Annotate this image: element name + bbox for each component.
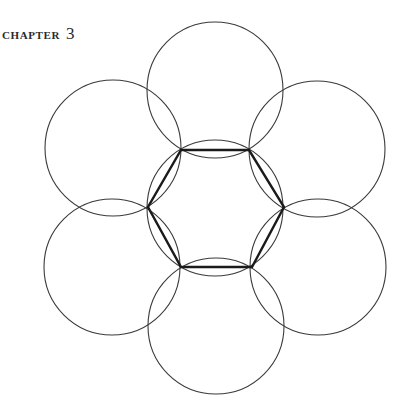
circle-upper-right xyxy=(249,81,385,217)
circle-lower-left xyxy=(44,199,180,335)
circle-upper-left xyxy=(45,80,181,216)
center-circle xyxy=(147,140,283,276)
circle-bottom xyxy=(148,258,284,394)
inscribed-hexagon xyxy=(148,150,284,267)
circle-lower-right xyxy=(250,199,386,335)
geometric-figure xyxy=(0,0,397,406)
circle-top xyxy=(147,22,283,158)
